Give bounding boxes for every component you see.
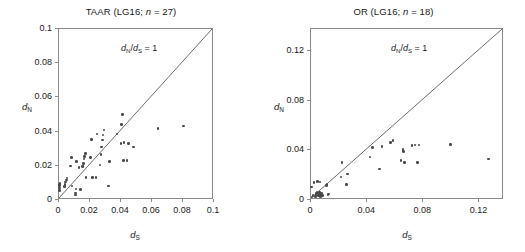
- data-point: [100, 153, 103, 156]
- x-axis-label-or: dS: [402, 229, 412, 240]
- data-point: [59, 182, 62, 185]
- y-axis-tick-label: 0: [12, 194, 52, 204]
- x-axis-tick-label: 0.1: [207, 205, 220, 215]
- x-axis-tick-label: 0.12: [470, 205, 488, 215]
- panel-title-taar-suffix: = 27): [151, 6, 176, 17]
- y-axis-tick-label: 0.06: [12, 91, 52, 101]
- x-axis-tick-label: 0.08: [414, 205, 432, 215]
- data-point: [83, 155, 86, 158]
- data-point: [121, 113, 124, 116]
- data-point: [84, 152, 87, 155]
- data-point: [400, 159, 403, 162]
- y-axis-tick-label: 0.04: [264, 144, 304, 154]
- y-axis-tick-label: 0.02: [12, 160, 52, 170]
- x-axis-tick-label: 0.06: [142, 205, 160, 215]
- x-axis-tick: [310, 199, 311, 202]
- scatter-panel-or: OR (LG16; n = 18) dN/dS = 1 dS dN 00.040…: [262, 0, 525, 252]
- data-point: [89, 156, 92, 159]
- x-axis-tick: [422, 199, 423, 202]
- data-point: [91, 176, 94, 179]
- plot-area-or: dN/dS = 1: [310, 28, 503, 199]
- y-axis-label-taar: dN: [22, 101, 32, 112]
- scatter-panel-taar: TAAR (LG16; n = 27) dN/dS = 1 dS dN 00.0…: [0, 0, 262, 252]
- panel-title-or-prefix: OR (LG16;: [353, 6, 403, 17]
- data-point: [321, 194, 324, 197]
- x-axis-tick: [182, 199, 183, 202]
- y-axis-tick: [55, 28, 58, 29]
- y-axis-tick-label: 0: [264, 194, 304, 204]
- y-axis-tick: [307, 50, 310, 51]
- x-axis-tick-label: 0.02: [80, 205, 98, 215]
- x-axis-tick: [478, 199, 479, 202]
- data-point: [75, 160, 78, 163]
- y-axis-tick: [307, 100, 310, 101]
- panel-title-taar-prefix: TAAR (LG16;: [86, 6, 146, 17]
- y-axis-tick-label: 0.12: [264, 45, 304, 55]
- data-point: [403, 161, 406, 164]
- data-point: [345, 183, 348, 186]
- y-axis-tick-label: 0.1: [12, 23, 52, 33]
- y-axis-tick: [55, 165, 58, 166]
- data-point: [90, 138, 93, 141]
- y-axis-tick: [307, 199, 310, 200]
- annotation-dn-ds-ratio-or: dN/dS = 1: [391, 43, 427, 53]
- data-point: [389, 141, 392, 144]
- data-point: [341, 161, 344, 164]
- data-point: [82, 162, 85, 165]
- data-point: [70, 156, 73, 159]
- y-axis-tick: [307, 149, 310, 150]
- data-point: [487, 158, 490, 161]
- data-point: [122, 159, 125, 162]
- x-axis-tick: [366, 199, 367, 202]
- y-axis-tick-label: 0.04: [12, 126, 52, 136]
- reference-line-taar: [59, 29, 212, 198]
- x-axis-tick: [151, 199, 152, 202]
- figure-container: TAAR (LG16; n = 27) dN/dS = 1 dS dN 00.0…: [0, 0, 525, 252]
- plot-area-taar: dN/dS = 1: [58, 28, 213, 199]
- panel-title-or-suffix: = 18): [408, 6, 433, 17]
- y-axis-tick-label: 0.08: [12, 57, 52, 67]
- x-axis-tick-label: 0: [55, 205, 60, 215]
- y-axis-tick: [55, 131, 58, 132]
- y-axis-tick: [55, 96, 58, 97]
- x-axis-tick-label: 0.04: [111, 205, 129, 215]
- data-point: [313, 181, 316, 184]
- data-point: [402, 150, 405, 153]
- reference-line-or: [311, 29, 502, 198]
- panel-title-or: OR (LG16; n = 18): [262, 6, 525, 17]
- data-point: [449, 143, 452, 146]
- annotation-dn-ds-ratio-taar: dN/dS = 1: [121, 43, 157, 53]
- data-point: [127, 142, 130, 145]
- y-axis-tick-label: 0.08: [264, 95, 304, 105]
- panel-title-taar: TAAR (LG16; n = 27): [0, 6, 262, 17]
- x-axis-tick-label: 0.08: [173, 205, 191, 215]
- x-axis-tick: [89, 199, 90, 202]
- x-axis-tick-label: 0: [307, 205, 312, 215]
- x-axis-tick: [58, 199, 59, 202]
- y-axis-tick: [55, 199, 58, 200]
- data-point: [416, 161, 419, 164]
- data-point: [79, 188, 82, 191]
- x-axis-tick: [120, 199, 121, 202]
- x-axis-tick: [213, 199, 214, 202]
- x-axis-tick-label: 0.04: [357, 205, 375, 215]
- data-point: [58, 189, 61, 192]
- data-point: [69, 165, 72, 168]
- x-axis-label-taar: dS: [130, 229, 140, 240]
- y-axis-tick: [55, 62, 58, 63]
- data-point: [108, 160, 111, 163]
